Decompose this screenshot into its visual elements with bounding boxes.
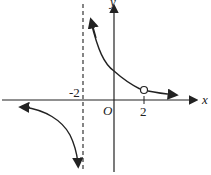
x-axis-label: x [201,92,208,107]
open-circle-hole [141,87,148,94]
tick-label-2: 2 [140,104,147,119]
function-graph: x y O -2 2 [0,0,211,175]
tick-label-neg2: -2 [69,85,80,100]
curve-right-branch [91,22,175,95]
origin-label: O [103,103,113,118]
curve-left-branch [24,107,78,163]
y-axis-label: y [108,0,116,9]
